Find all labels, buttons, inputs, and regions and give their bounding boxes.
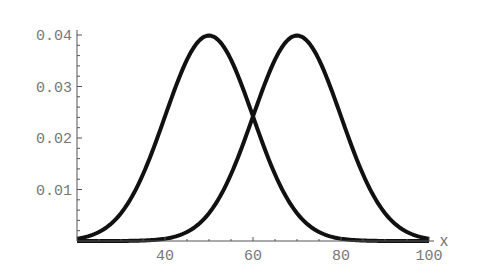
- chart: 0.010.020.030.04 406080100 x: [0, 0, 482, 278]
- y-tick-label: 0.01: [36, 183, 72, 200]
- x-axis-label: x: [440, 232, 448, 249]
- x-tick-label: 40: [156, 248, 174, 265]
- y-tick-label: 0.03: [36, 80, 72, 97]
- x-tick-label: 60: [244, 248, 262, 265]
- curves: [77, 36, 429, 241]
- x-tick-label: 100: [415, 248, 442, 265]
- y-tick-label: 0.04: [36, 28, 72, 45]
- y-tick-label: 0.02: [36, 131, 72, 148]
- curve-1: [77, 36, 429, 241]
- curve-2: [77, 36, 429, 241]
- x-tick-label: 80: [332, 248, 350, 265]
- y-ticks: 0.010.020.030.04: [36, 28, 82, 231]
